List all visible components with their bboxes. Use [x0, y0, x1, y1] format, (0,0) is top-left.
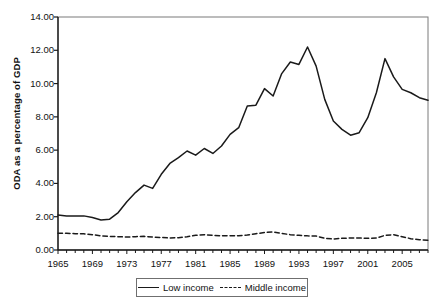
y-tick-label: 0.00	[16, 245, 54, 255]
y-tick-label: 2.00	[16, 212, 54, 222]
y-tick-label: 6.00	[16, 145, 54, 155]
legend-item-low-income: Low income	[138, 282, 214, 293]
legend-swatch-dashed-icon	[220, 287, 241, 288]
legend-label-middle-income: Middle income	[245, 282, 306, 293]
plot-frame	[58, 17, 428, 250]
oda-gdp-line-chart: ODA as a percentage of GDP 0.002.004.006…	[0, 0, 441, 304]
series-line-low-income	[58, 47, 428, 220]
legend-swatch-solid-icon	[138, 287, 159, 288]
y-tick-label: 4.00	[16, 178, 54, 188]
y-tick-label: 12.00	[16, 45, 54, 55]
series-line-middle-income	[58, 232, 428, 240]
y-tick-label: 14.00	[16, 12, 54, 22]
chart-legend: Low income Middle income	[136, 278, 308, 297]
legend-label-low-income: Low income	[163, 282, 214, 293]
y-tick-label: 8.00	[16, 112, 54, 122]
y-tick-label: 10.00	[16, 79, 54, 89]
legend-item-middle-income: Middle income	[220, 282, 306, 293]
x-tick-label: 2005	[382, 258, 422, 269]
